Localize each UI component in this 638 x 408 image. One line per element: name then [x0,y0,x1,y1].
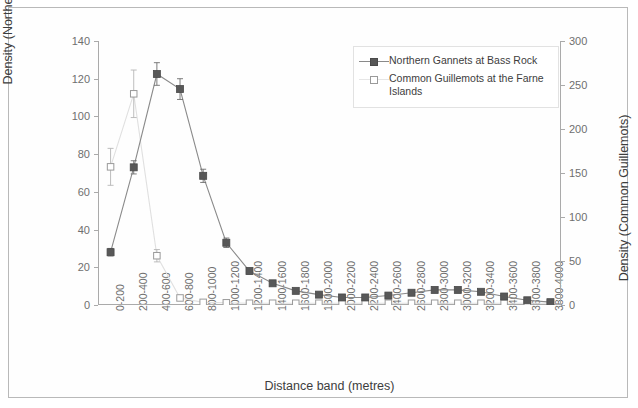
y-tick-label-left: 20 [56,262,90,272]
chart-frame: Density (Northern Gannets) Density (Comm… [8,7,628,398]
legend-item-guillemots: Common Guillemots at the Farne Islands [359,72,554,97]
y-tick-mark-left [94,305,98,306]
y-tick-label-left: 0 [56,300,90,310]
y-axis-title-right: Density (Common Guillemots) [617,88,631,308]
y-tick-label-right: 300 [569,36,603,46]
y-tick-label-left: 140 [56,36,90,46]
y-tick-label-left: 100 [56,111,90,121]
legend-label-gannets: Northern Gannets at Bass Rock [389,54,537,67]
legend-marker-filled-square-icon [359,56,389,68]
legend-label-guillemots: Common Guillemots at the Farne Islands [389,72,554,97]
y-tick-label-left: 40 [56,225,90,235]
legend-item-gannets: Northern Gannets at Bass Rock [359,54,554,68]
legend-marker-open-square-icon [359,74,389,86]
y-tick-label-left: 60 [56,187,90,197]
y-tick-label-right: 0 [569,300,603,310]
y-tick-label-right: 150 [569,168,603,178]
y-axis-title-left: Density (Northern Gannets) [1,0,15,108]
y-tick-label-right: 200 [569,124,603,134]
y-tick-label-left: 120 [56,74,90,84]
x-axis-title: Distance band (metres) [98,379,561,393]
y-tick-label-left: 80 [56,149,90,159]
y-tick-label-right: 50 [569,256,603,266]
chart-legend: Northern Gannets at Bass Rock Common Gui… [353,46,559,108]
y-tick-label-right: 250 [569,80,603,90]
y-tick-label-right: 100 [569,212,603,222]
